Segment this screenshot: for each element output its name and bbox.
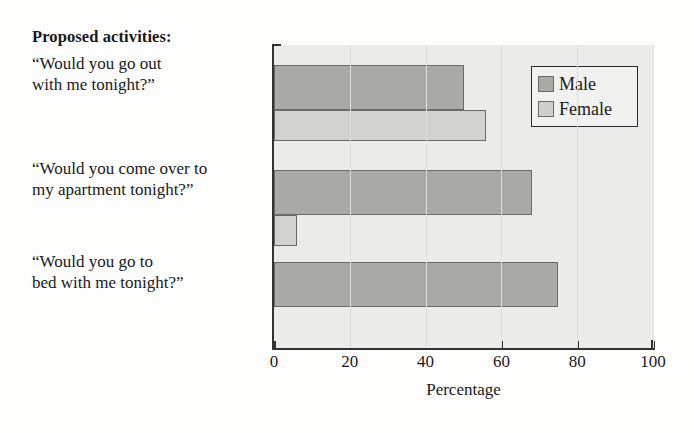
- category-label-3-line2: bed with me tonight?”: [32, 273, 272, 294]
- x-axis-tick-label: 80: [547, 352, 607, 372]
- gridline: [653, 45, 654, 348]
- gridline: [426, 45, 427, 348]
- bar-female-group2: [274, 215, 297, 246]
- x-axis-tick: [274, 341, 276, 350]
- legend-swatch-female-icon: [538, 101, 554, 117]
- y-axis-line: [272, 44, 274, 350]
- bar-male-group2: [274, 170, 532, 215]
- x-axis-tick-label: 40: [396, 352, 456, 372]
- gridline: [577, 45, 578, 348]
- page-title: Proposed activities:: [32, 28, 268, 46]
- x-axis-line: [272, 348, 653, 350]
- legend: Male Female: [531, 66, 638, 127]
- category-label-1-line2: with me tonight?”: [32, 75, 272, 96]
- legend-item-male: Male: [538, 71, 630, 96]
- bar-female-group1: [274, 110, 486, 141]
- legend-item-female: Female: [538, 96, 630, 121]
- legend-label-female: Female: [559, 100, 612, 118]
- bar-male-group1: [274, 65, 464, 110]
- category-label-column: Proposed activities: “Would you go out w…: [32, 28, 268, 348]
- category-label-3-line1: “Would you go to: [32, 252, 153, 271]
- category-label-1: “Would you go out with me tonight?”: [32, 54, 272, 95]
- x-axis-tick-label: 20: [320, 352, 380, 372]
- gridline: [501, 45, 502, 348]
- y-axis-top-cap: [272, 44, 281, 46]
- x-axis-tick-label: 100: [623, 352, 683, 372]
- bar-male-group3: [274, 262, 558, 307]
- category-label-2-line1: “Would you come over to: [32, 159, 207, 178]
- category-label-2: “Would you come over to my apartment ton…: [32, 159, 272, 200]
- x-axis-label: Percentage: [274, 380, 653, 400]
- bar-chart-figure: Proposed activities: “Would you go out w…: [0, 0, 694, 433]
- category-label-2-line2: my apartment tonight?”: [32, 180, 272, 201]
- x-axis-tick-label: 60: [471, 352, 531, 372]
- category-label-3: “Would you go to bed with me tonight?”: [32, 252, 272, 293]
- x-axis-tick-label: 0: [244, 352, 304, 372]
- category-label-1-line1: “Would you go out: [32, 54, 161, 73]
- gridline: [350, 45, 351, 348]
- legend-swatch-male-icon: [538, 76, 554, 92]
